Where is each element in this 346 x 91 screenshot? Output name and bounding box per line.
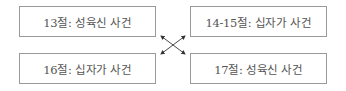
cross-arrows-icon bbox=[158, 33, 188, 57]
box-label: 17절: 성육신 사건 bbox=[214, 61, 303, 77]
box-verse-16: 16절: 십자가 사건 bbox=[19, 53, 156, 84]
box-verse-14-15: 14-15절: 십자가 사건 bbox=[190, 6, 327, 37]
box-label: 13절: 성육신 사건 bbox=[43, 14, 132, 30]
box-verse-13: 13절: 성육신 사건 bbox=[19, 6, 156, 37]
box-label: 14-15절: 십자가 사건 bbox=[205, 14, 311, 30]
box-verse-17: 17절: 성육신 사건 bbox=[190, 53, 327, 84]
box-label: 16절: 십자가 사건 bbox=[43, 61, 132, 77]
